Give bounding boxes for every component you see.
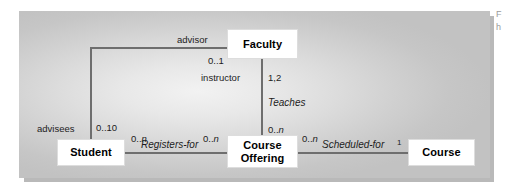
entity-label-student: Student xyxy=(70,146,112,159)
multiplicity-offering-registers: 0..n xyxy=(203,134,219,144)
multiplicity-offering-scheduled: 0..n xyxy=(302,134,318,144)
line-advisor-horizontal xyxy=(90,47,228,49)
multiplicity-student-registers-prefix: 0.. xyxy=(131,133,142,144)
diagram-panel: Faculty Student Course Offering Course a… xyxy=(19,11,490,178)
line-advisor-vertical xyxy=(90,47,92,139)
entity-box-faculty[interactable]: Faculty xyxy=(227,29,298,59)
multiplicity-faculty-advisor: 0..1 xyxy=(208,56,224,66)
multiplicity-offering-registers-prefix: 0.. xyxy=(203,133,214,144)
multiplicity-offering-teaches: 0..n xyxy=(268,125,284,135)
entity-label-faculty: Faculty xyxy=(243,38,282,51)
entity-box-course[interactable]: Course xyxy=(408,139,475,166)
line-scheduled-for-horizontal xyxy=(298,152,408,154)
association-label-registers-for: Registers-for xyxy=(141,140,198,150)
role-label-advisor: advisor xyxy=(177,35,208,45)
entity-label-course-offering-line1: Course xyxy=(243,139,282,152)
entity-box-course-offering[interactable]: Course Offering xyxy=(227,135,298,168)
multiplicity-faculty-instructor: 1,2 xyxy=(268,73,281,83)
entity-label-course: Course xyxy=(422,146,461,159)
caption-fragment: F h xyxy=(496,8,518,34)
association-label-teaches: Teaches xyxy=(268,98,305,108)
multiplicity-offering-scheduled-suffix: n xyxy=(313,133,318,144)
role-label-advisees: advisees xyxy=(37,124,75,134)
entity-box-student[interactable]: Student xyxy=(57,139,125,166)
multiplicity-course-scheduled: 1 xyxy=(397,138,401,148)
line-registers-for-horizontal xyxy=(125,152,227,154)
association-label-scheduled-for: Scheduled-for xyxy=(322,140,384,150)
multiplicity-offering-registers-suffix: n xyxy=(214,133,219,144)
caption-fragment-line2: h xyxy=(496,21,518,34)
caption-fragment-line1: F xyxy=(496,8,518,21)
multiplicity-offering-scheduled-prefix: 0.. xyxy=(302,133,313,144)
multiplicity-offering-teaches-prefix: 0.. xyxy=(268,124,279,135)
role-label-instructor: instructor xyxy=(201,73,240,83)
multiplicity-offering-teaches-suffix: n xyxy=(279,124,284,135)
entity-label-course-offering-line2: Offering xyxy=(241,152,285,165)
diagram-canvas: Faculty Student Course Offering Course a… xyxy=(0,0,518,191)
multiplicity-student-advisees: 0..10 xyxy=(96,123,117,133)
line-teaches-vertical xyxy=(261,59,263,136)
